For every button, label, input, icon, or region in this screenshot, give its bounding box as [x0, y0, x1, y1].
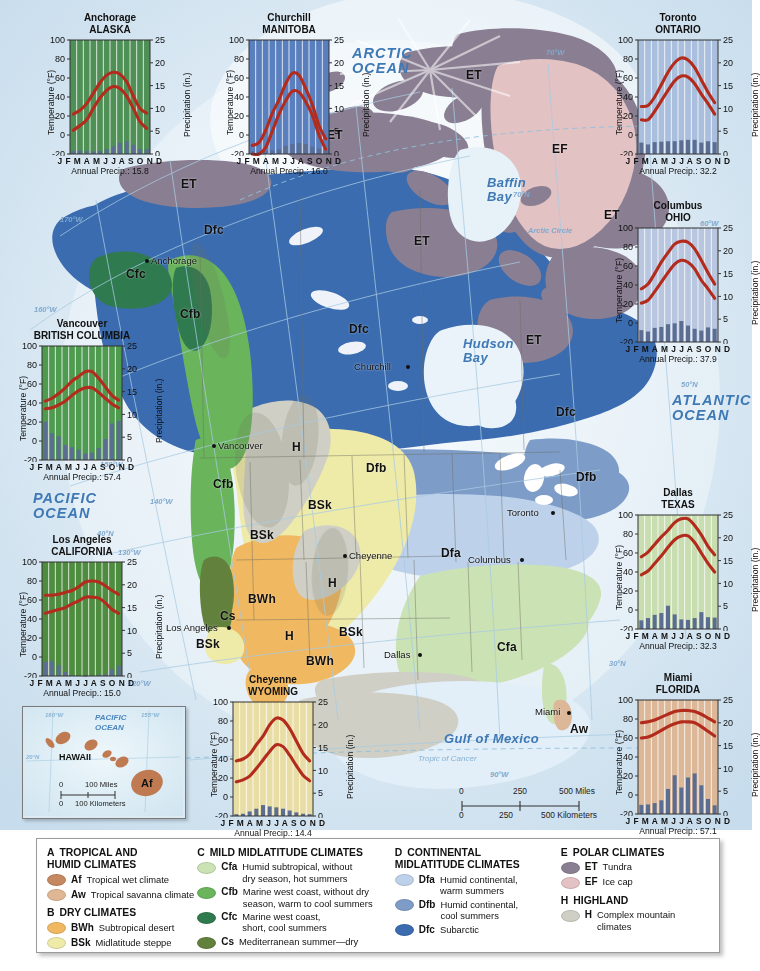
city-dot-churchill	[406, 365, 410, 369]
legend-code-af: Af	[71, 874, 82, 885]
svg-text:20: 20	[723, 58, 733, 68]
legend-item-cfa[interactable]: CfaHumid subtropical, without dry season…	[197, 861, 395, 883]
svg-text:100: 100	[618, 36, 633, 45]
legend-code-cfc: Cfc	[221, 911, 237, 922]
climograph-title-vancouver: Vancouver BRITISH COLUMBIA	[8, 318, 156, 341]
legend-heading-c: CMILD MIDLATITUDE CLIMATES	[197, 847, 395, 859]
climate-code-h: H	[328, 576, 337, 590]
annual-precip-toronto: Annual Precip.: 32.2	[604, 166, 752, 176]
svg-text:10: 10	[155, 104, 165, 114]
axis-title-precipitation-losangeles: Precipitation (in.)	[154, 595, 164, 659]
legend-item-et[interactable]: ETTundra	[561, 861, 709, 874]
climate-code-bsk: BSk	[339, 625, 363, 639]
legend-item-cfc[interactable]: CfcMarine west coast, short, cool summer…	[197, 911, 395, 933]
legend-code-ef: EF	[585, 876, 598, 887]
graticule-label-140-w: 140°W	[150, 497, 173, 506]
graticule-label-160-w: 160°W	[34, 305, 57, 314]
svg-text:100: 100	[618, 511, 633, 520]
month-axis-dallas: J F M A M J J A S O N D	[604, 631, 752, 641]
climate-code-et: ET	[466, 68, 482, 82]
legend-item-bsk[interactable]: BSkMidlatitude steppe	[47, 937, 197, 950]
hawaii-scale-km-0: 0	[59, 799, 63, 808]
legend-swatch-bwh	[47, 922, 66, 934]
axis-title-precipitation-toronto: Precipitation (in.)	[750, 73, 760, 137]
climograph-plot-miami: -200204060801000510152025	[604, 696, 752, 816]
city-label-churchill: Churchill	[354, 361, 391, 372]
hawaii-region-label: HAWAII	[59, 752, 91, 762]
svg-text:0: 0	[628, 605, 633, 615]
svg-text:80: 80	[623, 242, 633, 252]
legend-desc-af: Tropical wet climate	[87, 874, 170, 885]
axis-title-precipitation-columbus: Precipitation (in.)	[750, 261, 760, 325]
legend-code-cfb: Cfb	[221, 886, 238, 897]
legend-item-aw[interactable]: AwTropical savanna climate	[47, 889, 197, 902]
svg-text:0: 0	[628, 318, 633, 328]
axis-title-precipitation-anchorage: Precipitation (in.)	[182, 73, 192, 137]
climograph-churchill: Churchill MANITOBA-200204060801000510152…	[215, 12, 363, 176]
svg-text:15: 15	[723, 741, 733, 751]
legend-code-bwh: BWh	[71, 922, 94, 933]
legend-item-h[interactable]: HComplex mountain climates	[561, 909, 709, 931]
svg-text:20: 20	[155, 58, 165, 68]
climograph-toronto: Toronto ONTARIO-200204060801000510152025…	[604, 12, 752, 176]
svg-text:100: 100	[213, 698, 228, 707]
ocean-label-gulf-of-mexico: Gulf of Mexico	[444, 732, 539, 746]
ocean-label-pacific-ocean: PACIFIC OCEAN	[33, 491, 97, 521]
svg-text:20: 20	[623, 586, 633, 596]
svg-text:20: 20	[723, 246, 733, 256]
annual-precip-dallas: Annual Precip.: 32.3	[604, 641, 752, 651]
legend-item-ef[interactable]: EFIce cap	[561, 876, 709, 889]
legend-heading-h: HHIGHLAND	[561, 895, 709, 907]
svg-text:20: 20	[623, 299, 633, 309]
svg-text:25: 25	[723, 696, 733, 705]
svg-text:-20: -20	[231, 149, 244, 156]
svg-text:20: 20	[55, 111, 65, 121]
svg-text:25: 25	[334, 36, 344, 45]
city-label-miami: Miami	[535, 706, 560, 717]
svg-text:40: 40	[27, 398, 37, 408]
city-label-los-angeles: Los Angeles	[166, 622, 218, 633]
month-axis-toronto: J F M A M J J A S O N D	[604, 156, 752, 166]
axis-title-temperature-columbus: Temperature (°F)	[614, 258, 624, 323]
scale-km-0: 0	[459, 810, 464, 820]
graticule-label-70-n: 70°N	[513, 190, 530, 199]
svg-text:-20: -20	[620, 149, 633, 156]
legend-item-bwh[interactable]: BWhSubtropical desert	[47, 922, 197, 935]
svg-text:0: 0	[32, 652, 37, 662]
legend-swatch-h	[561, 910, 580, 922]
legend-desc-bsk: Midlatitude steppe	[95, 937, 171, 948]
svg-text:80: 80	[623, 529, 633, 539]
legend-column-ab: ATROPICAL AND HUMID CLIMATESAfTropical w…	[47, 847, 197, 946]
legend-item-af[interactable]: AfTropical wet climate	[47, 874, 197, 887]
svg-text:15: 15	[318, 743, 328, 753]
svg-text:-20: -20	[24, 671, 37, 678]
svg-text:60: 60	[55, 73, 65, 83]
svg-text:5: 5	[155, 126, 160, 136]
legend-item-dfc[interactable]: DfcSubarctic	[395, 924, 561, 937]
legend-item-cfb[interactable]: CfbMarine west coast, without dry season…	[197, 886, 395, 908]
legend-item-dfa[interactable]: DfaHumid continental, warm summers	[395, 874, 561, 896]
svg-text:0: 0	[127, 671, 132, 678]
svg-text:80: 80	[218, 716, 228, 726]
svg-text:15: 15	[723, 269, 733, 279]
legend-column-c: CMILD MIDLATITUDE CLIMATESCfaHumid subtr…	[197, 847, 395, 946]
svg-text:20: 20	[723, 533, 733, 543]
legend-swatch-af	[47, 874, 66, 886]
graticule-label-70-w: 70°W	[546, 48, 564, 57]
legend-heading-e: EPOLAR CLIMATES	[561, 847, 709, 859]
axis-title-precipitation-cheyenne: Precipitation (in.)	[345, 735, 355, 799]
hawaii-scale-km-100: 100 Kilometers	[75, 799, 126, 808]
svg-text:40: 40	[55, 92, 65, 102]
city-label-columbus: Columbus	[468, 554, 511, 565]
city-label-vancouver: Vancouver	[218, 440, 263, 451]
climograph-anchorage: Anchorage ALASKA-20020406080100051015202…	[36, 12, 184, 176]
climate-code-bwh: BWh	[248, 592, 276, 606]
axis-title-precipitation-dallas: Precipitation (in.)	[750, 548, 760, 612]
legend-item-dfb[interactable]: DfbHumid continental, cool summers	[395, 899, 561, 921]
graticule-label-30-n: 30°N	[609, 659, 626, 668]
svg-text:80: 80	[623, 714, 633, 724]
legend-item-cs[interactable]: CsMediterranean summer—dry	[197, 936, 395, 949]
svg-text:60: 60	[27, 595, 37, 605]
climate-code-et: ET	[414, 234, 430, 248]
scale-miles-0: 0	[459, 786, 464, 796]
